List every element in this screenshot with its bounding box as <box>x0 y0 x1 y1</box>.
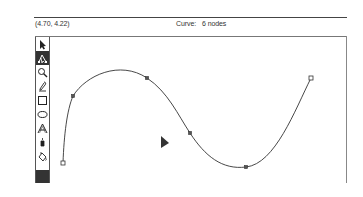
pick-tool-button[interactable] <box>36 37 49 51</box>
bezier-curve[interactable] <box>63 70 311 167</box>
curve-node[interactable] <box>245 166 248 169</box>
toolbox <box>35 37 50 183</box>
cursor-coordinates: (4.70, 4.22) <box>35 20 70 27</box>
rectangle-icon <box>37 95 48 106</box>
color-swatch[interactable] <box>36 170 49 183</box>
zoom-tool-button[interactable] <box>36 65 49 79</box>
magnifier-icon <box>37 67 48 78</box>
curve-node[interactable] <box>189 132 192 135</box>
rectangle-tool-button[interactable] <box>36 93 49 107</box>
text-tool-button[interactable] <box>36 121 49 135</box>
arrow-pointer-icon <box>37 39 48 50</box>
canvas-frame-right <box>346 36 347 183</box>
object-type-label: Curve: <box>176 20 196 27</box>
text-a-icon <box>37 123 48 134</box>
outline-tool-button[interactable] <box>36 135 49 149</box>
pen-nib-icon <box>37 137 48 148</box>
shape-tool-button[interactable] <box>36 51 49 65</box>
node-edit-icon <box>37 53 48 64</box>
curve-node[interactable] <box>72 95 75 98</box>
mouse-cursor-icon <box>161 136 169 148</box>
drawing-canvas[interactable] <box>0 0 363 197</box>
curve-node[interactable] <box>146 77 149 80</box>
node-count-text: 6 nodes <box>202 20 226 27</box>
status-bar-divider <box>34 17 347 18</box>
curve-node-end[interactable] <box>309 76 313 80</box>
ellipse-icon <box>37 109 48 120</box>
paint-bucket-icon <box>37 151 48 162</box>
pencil-icon <box>37 81 48 92</box>
curve-node-start[interactable] <box>61 161 65 165</box>
fill-tool-button[interactable] <box>36 149 49 163</box>
ellipse-tool-button[interactable] <box>36 107 49 121</box>
pencil-tool-button[interactable] <box>36 79 49 93</box>
selection-info: Curve:6 nodes <box>176 20 226 27</box>
canvas-frame-top <box>35 36 347 37</box>
